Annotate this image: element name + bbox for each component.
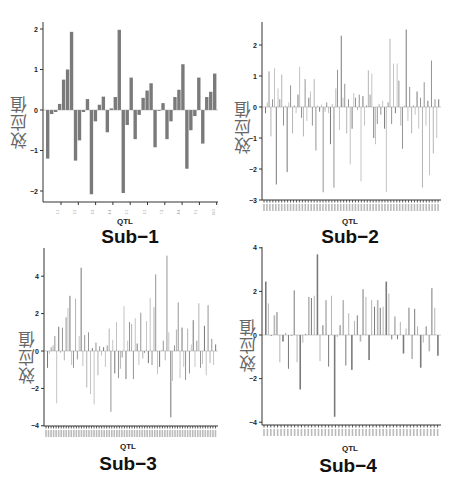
bar <box>385 282 387 335</box>
bar <box>288 335 289 369</box>
bar <box>268 303 269 335</box>
bar <box>374 307 375 335</box>
svg-text:2: 2 <box>253 288 257 295</box>
bar <box>334 335 336 417</box>
bar <box>285 333 286 335</box>
bar <box>365 297 366 335</box>
bar <box>311 298 312 335</box>
bar <box>397 335 398 339</box>
bar <box>274 315 276 335</box>
bar <box>354 321 355 335</box>
bar <box>351 335 353 370</box>
bar <box>414 309 415 335</box>
bar <box>371 300 372 335</box>
bar <box>299 335 301 390</box>
bar <box>403 335 405 354</box>
bar <box>400 322 401 335</box>
bar <box>357 315 358 335</box>
bar <box>429 335 431 351</box>
bar <box>434 308 435 335</box>
bar <box>325 300 327 335</box>
bar <box>322 325 323 335</box>
chart-sub-4-plot: −4−2024 <box>0 0 455 484</box>
bar <box>391 335 392 339</box>
bar <box>408 308 409 335</box>
bar <box>282 335 284 342</box>
bar <box>314 296 315 335</box>
bar <box>308 297 310 335</box>
bar <box>331 296 332 335</box>
bar <box>360 335 362 342</box>
bar <box>394 316 396 335</box>
bar <box>320 335 321 361</box>
bar <box>406 328 407 335</box>
bar <box>302 335 303 343</box>
bar <box>411 335 413 359</box>
svg-text:−2: −2 <box>249 375 257 382</box>
bar <box>383 307 384 335</box>
bar <box>337 335 338 337</box>
chart-title: Sub−4 <box>308 455 388 477</box>
bar <box>431 288 432 335</box>
bar <box>317 254 319 335</box>
bar <box>345 335 346 366</box>
bar <box>417 326 418 335</box>
bar <box>363 289 364 335</box>
x-axis-label: QTL <box>335 444 365 453</box>
svg-text:4: 4 <box>253 244 257 251</box>
bar <box>279 335 280 362</box>
bar <box>348 313 349 335</box>
y-axis-label: 效应值 <box>235 318 260 372</box>
bar <box>340 325 341 335</box>
chart-sub-4: −4−2024 效应值 QTL Sub−4 <box>0 0 455 484</box>
bar <box>276 312 277 335</box>
bar <box>420 335 422 368</box>
bar <box>423 335 424 343</box>
bar <box>426 326 427 335</box>
bar <box>377 300 379 335</box>
bar <box>388 294 389 335</box>
bar <box>297 335 298 362</box>
bar <box>342 300 344 335</box>
bar <box>368 335 370 360</box>
bar <box>328 335 329 367</box>
bar <box>265 282 267 335</box>
bar <box>437 335 439 356</box>
bar <box>380 308 381 335</box>
svg-text:−4: −4 <box>249 419 257 426</box>
bar <box>294 290 295 335</box>
